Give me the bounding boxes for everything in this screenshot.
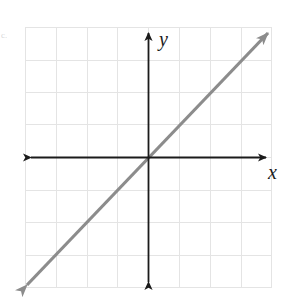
coordinate-plane-figure: c.	[0, 0, 286, 299]
plot-canvas	[0, 0, 286, 299]
x-axis-label: x	[268, 162, 277, 182]
y-axis-label: y	[159, 29, 168, 49]
